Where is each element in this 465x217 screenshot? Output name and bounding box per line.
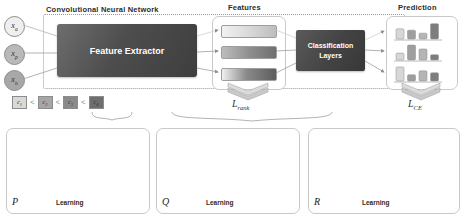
panel-p-learning-label: Learning xyxy=(56,199,83,206)
panel-r-symbol: R xyxy=(314,196,320,207)
panel-q-symbol: Q xyxy=(162,196,169,207)
panel-r-learning-label: Learning xyxy=(362,199,389,206)
panel-p-symbol: P xyxy=(12,196,18,207)
panel-q-learning-label: Learning xyxy=(206,199,233,206)
